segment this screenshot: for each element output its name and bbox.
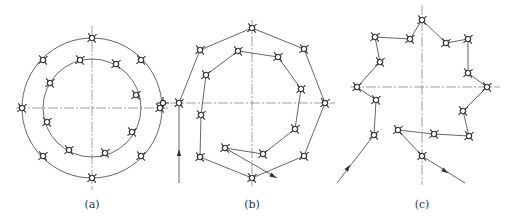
hole-marker-icon [296, 148, 313, 165]
hole-marker-icon [296, 41, 313, 58]
hole-marker-icon [128, 87, 145, 104]
figure-c-star-path [337, 5, 500, 185]
hole-marker-icon [270, 49, 287, 66]
hole-marker-icon [192, 42, 209, 59]
label-b: (b) [244, 198, 260, 211]
hole-marker-icon [35, 148, 52, 165]
arrow-icon [269, 173, 277, 180]
drilling-path-diagram [0, 0, 508, 220]
inner-polygon-path [201, 51, 301, 178]
hole-marker-icon [35, 52, 52, 69]
star-path [337, 20, 487, 183]
hole-marker-icon [287, 121, 304, 138]
hole-marker-icon [293, 81, 310, 98]
hole-marker-icon [217, 140, 234, 157]
hole-marker-icon [72, 52, 89, 69]
diagram-figure: (a) (b) (c) [0, 0, 508, 220]
label-a: (a) [84, 198, 99, 211]
hole-marker-icon [255, 146, 272, 163]
hole-circle [160, 100, 165, 105]
hole-marker-icon [108, 56, 125, 73]
hole-marker-icon [42, 75, 59, 92]
figure-b-polygon-path [157, 20, 335, 187]
arrow-icon [177, 149, 181, 156]
hole-marker-icon [230, 43, 247, 60]
label-c: (c) [415, 198, 430, 211]
hole-marker-icon [133, 52, 150, 69]
hole-marker-icon [198, 67, 215, 84]
hole-marker-icon [133, 148, 150, 165]
hole-marker-icon [61, 142, 78, 159]
figure-a-concentric-circles [14, 26, 169, 190]
